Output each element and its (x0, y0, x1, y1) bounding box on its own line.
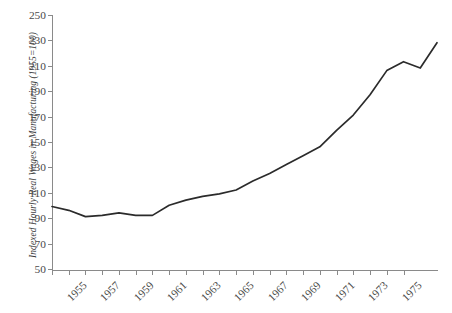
x-tick-label: 1973 (366, 279, 390, 303)
x-axis-tick-labels: 1955195719591961196319651967196919711973… (0, 279, 452, 313)
x-tick-mark (286, 271, 287, 275)
x-tick-label: 1963 (198, 279, 222, 303)
y-tick-label: 150 (20, 137, 46, 148)
y-tick-label: 170 (20, 112, 46, 123)
x-tick-label: 1959 (132, 279, 156, 303)
x-tick-mark (203, 271, 204, 275)
y-axis-tick-labels: 250230210190170150130110907050 (20, 0, 46, 313)
y-tick-label: 210 (20, 61, 46, 72)
x-tick-label: 1975 (399, 279, 423, 303)
y-tick-label: 50 (20, 264, 46, 275)
x-tick-mark (219, 271, 220, 275)
y-tick-label: 230 (20, 35, 46, 46)
x-tick-label: 1957 (98, 279, 122, 303)
x-tick-label: 1971 (332, 279, 356, 303)
x-tick-mark (253, 271, 254, 275)
x-tick-mark (270, 271, 271, 275)
x-tick-mark (186, 271, 187, 275)
x-tick-mark (337, 271, 338, 275)
line-chart: Indexed Hourly Real Wages in Manufacturi… (0, 0, 452, 313)
x-tick-mark (320, 271, 321, 275)
x-tick-label: 1967 (265, 279, 289, 303)
y-tick-label: 250 (20, 10, 46, 21)
x-tick-mark (102, 271, 103, 275)
x-tick-label: 1961 (165, 279, 189, 303)
x-tick-mark (69, 271, 70, 275)
y-tick-label: 70 (20, 239, 46, 250)
x-tick-mark (152, 271, 153, 275)
x-tick-mark (404, 271, 405, 275)
x-tick-mark (119, 271, 120, 275)
x-tick-mark (303, 271, 304, 275)
data-series-line (52, 16, 437, 270)
y-tick-label: 90 (20, 213, 46, 224)
y-tick-label: 130 (20, 162, 46, 173)
x-tick-mark (136, 271, 137, 275)
x-tick-label: 1965 (232, 279, 256, 303)
plot-area (52, 16, 437, 270)
x-axis-ticks (52, 271, 438, 276)
x-tick-mark (236, 271, 237, 275)
x-tick-label: 1955 (65, 279, 89, 303)
x-tick-mark (370, 271, 371, 275)
x-tick-mark (353, 271, 354, 275)
y-tick-label: 110 (20, 188, 46, 199)
y-tick-label: 190 (20, 86, 46, 97)
x-tick-mark (52, 271, 53, 275)
x-tick-mark (387, 271, 388, 275)
x-tick-mark (169, 271, 170, 275)
x-tick-label: 1969 (299, 279, 323, 303)
x-tick-mark (85, 271, 86, 275)
